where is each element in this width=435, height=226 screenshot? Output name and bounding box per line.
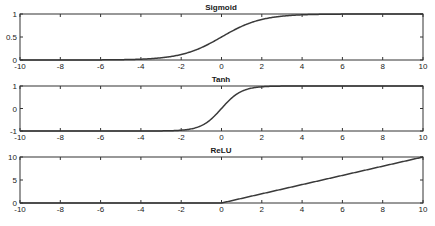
x-tick-label: 0: [219, 62, 224, 71]
y-tick-label: 0.5: [6, 33, 18, 42]
x-tick-label: -2: [178, 205, 186, 214]
x-tick-label: 4: [300, 62, 305, 71]
y-tick-label: 1: [13, 82, 18, 91]
x-tick-label: -6: [97, 133, 105, 142]
x-tick-label: 4: [300, 205, 305, 214]
x-tick-label: -4: [137, 133, 145, 142]
axis-ticks: -10-8-6-4-202468100510: [8, 153, 428, 214]
y-tick-label: 0: [13, 105, 18, 114]
x-tick-label: 2: [260, 62, 265, 71]
subplot-tanh: Tanh -10-8-6-4-20246810-101: [10, 75, 428, 142]
subplot-title: ReLU: [211, 146, 232, 155]
figure: Sigmoid -10-8-6-4-2024681000.51 Tanh -10…: [0, 0, 435, 226]
x-tick-label: 8: [380, 205, 385, 214]
axis-ticks: -10-8-6-4-2024681000.51: [6, 10, 428, 71]
x-tick-label: 0: [219, 205, 224, 214]
x-tick-label: -8: [57, 133, 65, 142]
y-tick-label: 5: [13, 176, 18, 185]
x-tick-label: 2: [260, 205, 265, 214]
x-tick-label: -6: [97, 62, 105, 71]
x-tick-label: -6: [97, 205, 105, 214]
x-tick-label: 2: [260, 133, 265, 142]
y-tick-label: 0: [13, 199, 18, 208]
x-tick-label: -8: [57, 205, 65, 214]
x-tick-label: 4: [300, 133, 305, 142]
x-tick-label: 6: [340, 62, 345, 71]
x-tick-label: -8: [57, 62, 65, 71]
y-tick-label: 10: [8, 153, 17, 162]
subplot-relu: ReLU -10-8-6-4-202468100510: [8, 146, 428, 214]
figure-canvas: Sigmoid -10-8-6-4-2024681000.51 Tanh -10…: [0, 0, 435, 226]
axes-frame: [20, 157, 423, 203]
x-tick-label: -4: [137, 62, 145, 71]
x-tick-label: -4: [137, 205, 145, 214]
x-tick-label: 6: [340, 133, 345, 142]
x-tick-label: -2: [178, 133, 186, 142]
y-tick-label: 1: [13, 10, 18, 19]
subplot-title: Tanh: [212, 75, 231, 84]
x-tick-label: 8: [380, 133, 385, 142]
subplot-title: Sigmoid: [205, 3, 237, 12]
sigmoid-curve: [20, 14, 423, 60]
subplot-sigmoid: Sigmoid -10-8-6-4-2024681000.51: [6, 3, 428, 71]
x-tick-label: 6: [340, 205, 345, 214]
x-tick-label: -2: [178, 62, 186, 71]
x-tick-label: 8: [380, 62, 385, 71]
y-tick-label: 0: [13, 56, 18, 65]
tanh-curve: [20, 86, 423, 131]
x-tick-label: 10: [419, 62, 428, 71]
y-tick-label: -1: [10, 127, 18, 136]
x-tick-label: 0: [219, 133, 224, 142]
x-tick-label: 10: [419, 133, 428, 142]
relu-curve: [20, 157, 423, 203]
x-tick-label: 10: [419, 205, 428, 214]
